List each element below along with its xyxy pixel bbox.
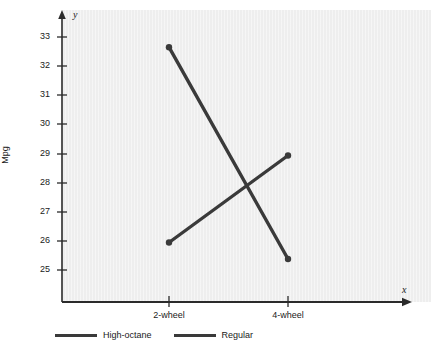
y-axis-title: Mpg — [0, 146, 10, 164]
interaction-plot-figure: 33 32 31 30 29 28 27 26 25 2-wheel 4-whe… — [0, 0, 431, 352]
x-tick-label-4-wheel: 4-wheel — [258, 310, 318, 320]
y-tick-label: 31 — [28, 89, 50, 99]
legend-item-regular[interactable]: Regular — [174, 330, 254, 340]
y-tick-label: 32 — [28, 60, 50, 70]
legend-label: High-octane — [103, 330, 152, 340]
y-axis-letter: y — [73, 9, 77, 20]
y-tick-label: 30 — [28, 118, 50, 128]
data-point — [285, 256, 291, 262]
x-axis-letter: x — [402, 284, 406, 295]
legend-item-high-octane[interactable]: High-octane — [55, 330, 152, 340]
y-tick-label: 33 — [28, 31, 50, 41]
data-point — [166, 44, 172, 50]
y-tick-label: 28 — [28, 177, 50, 187]
x-tick-label-2-wheel: 2-wheel — [139, 310, 199, 320]
legend-line-swatch-icon — [55, 334, 97, 337]
legend-label: Regular — [222, 330, 254, 340]
series-high-octane-line — [169, 47, 288, 259]
y-axis-arrow — [58, 10, 66, 19]
legend: High-octane Regular — [55, 330, 253, 340]
y-tick-label: 25 — [28, 264, 50, 274]
y-tick-label: 29 — [28, 148, 50, 158]
chart-canvas — [0, 0, 431, 352]
legend-line-swatch-icon — [174, 334, 216, 337]
x-axis-arrow — [402, 298, 412, 306]
y-tick-label: 26 — [28, 235, 50, 245]
data-point — [166, 239, 172, 245]
data-point — [285, 152, 291, 158]
axes-group — [58, 10, 412, 306]
y-tick-label: 27 — [28, 206, 50, 216]
